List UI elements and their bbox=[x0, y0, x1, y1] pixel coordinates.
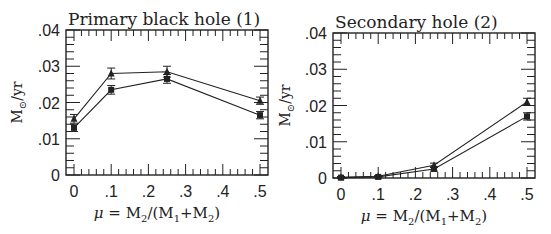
square-marker bbox=[524, 113, 530, 119]
y-tick-label: .04 bbox=[38, 22, 60, 39]
y-tick-label: .02 bbox=[305, 98, 327, 115]
y-tick-label: .02 bbox=[38, 95, 60, 112]
panel-title: Primary black hole (1) bbox=[68, 9, 260, 29]
x-tick-label: .5 bbox=[520, 186, 533, 203]
triangle-marker bbox=[164, 68, 171, 75]
y-tick-label: .04 bbox=[305, 25, 327, 42]
y-tick-label: .03 bbox=[305, 61, 327, 78]
x-tick-label: .3 bbox=[179, 183, 192, 200]
y-tick-label: .01 bbox=[305, 134, 327, 151]
panel-primary: 0.01.02.03.040.1.2.3.4.5Primary black ho… bbox=[9, 9, 268, 224]
x-tick-label: .1 bbox=[105, 183, 118, 200]
x-axis-label: μ = M2/(M1+M2) bbox=[94, 204, 220, 224]
x-tick-label: .4 bbox=[483, 186, 496, 203]
square-marker bbox=[375, 174, 381, 180]
plot-frame bbox=[333, 33, 535, 178]
panel-title: Secondary hole (2) bbox=[335, 12, 498, 32]
square-marker bbox=[164, 76, 170, 82]
square-marker bbox=[338, 175, 344, 181]
plot-frame bbox=[66, 30, 268, 175]
triangle-marker bbox=[524, 98, 531, 105]
x-tick-label: .3 bbox=[446, 186, 459, 203]
y-tick-label: .03 bbox=[38, 58, 60, 75]
x-tick-label: .1 bbox=[372, 186, 385, 203]
x-tick-label: .2 bbox=[409, 186, 422, 203]
series-line-squares bbox=[74, 79, 260, 128]
square-marker bbox=[71, 125, 77, 131]
x-tick-label: .4 bbox=[216, 183, 229, 200]
figure: 0.01.02.03.040.1.2.3.4.5Primary black ho… bbox=[0, 0, 551, 234]
y-tick-label: .01 bbox=[38, 131, 60, 148]
y-axis-label: M⊙/yr bbox=[277, 84, 296, 126]
square-marker bbox=[257, 112, 263, 118]
x-tick-label: .5 bbox=[253, 183, 266, 200]
x-tick-label: 0 bbox=[70, 183, 79, 200]
y-tick-label: 0 bbox=[318, 170, 327, 187]
x-axis-label: μ = M2/(M1+M2) bbox=[361, 207, 487, 227]
y-tick-label: 0 bbox=[51, 167, 60, 184]
square-marker bbox=[108, 87, 114, 93]
y-axis-label: M⊙/yr bbox=[9, 81, 28, 123]
x-tick-label: 0 bbox=[337, 186, 346, 203]
x-tick-label: .2 bbox=[142, 183, 155, 200]
square-marker bbox=[431, 166, 437, 172]
panel-secondary: 0.01.02.03.040.1.2.3.4.5Secondary hole (… bbox=[277, 12, 535, 227]
